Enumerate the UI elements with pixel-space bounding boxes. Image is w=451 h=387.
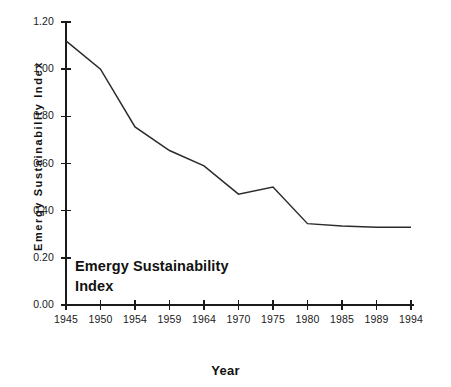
series-annotation-line-2: Index — [75, 276, 285, 296]
data-series-group — [66, 41, 411, 227]
y-axis-title: Emergy Sustainability Index — [32, 46, 44, 266]
data-line-emergy-sustainability-index — [66, 41, 411, 227]
chart-plot-area — [0, 0, 451, 387]
y-tick-label: 0.00 — [20, 299, 54, 310]
y-tick-label: 1.20 — [20, 16, 54, 27]
series-annotation: Emergy Sustainability Index — [75, 256, 285, 296]
series-annotation-line-1: Emergy Sustainability — [75, 256, 285, 276]
x-tick-label: 1994 — [391, 314, 431, 325]
chart-figure: 0.000.200.400.600.801.001.20 19451950195… — [0, 0, 451, 387]
x-axis-title: Year — [0, 363, 451, 378]
